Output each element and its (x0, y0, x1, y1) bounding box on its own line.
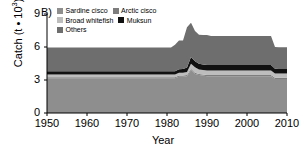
y-tick-label: 6 (20, 40, 40, 52)
legend-row: Others (57, 26, 187, 33)
y-tick-label: 3 (20, 73, 40, 85)
legend-row: Broad whitefish Muksun (57, 17, 187, 24)
legend-label-broad-whitefish: Broad whitefish (66, 17, 114, 24)
legend-row: Sardine cisco Arctic cisco (57, 7, 187, 14)
chart-legend: Sardine cisco Arctic cisco Broad whitefi… (57, 7, 187, 36)
figure-panel-b: B) Sardine cisco Arctic cisco Broad whit… (0, 0, 304, 149)
legend-label-muksun: Muksun (127, 17, 152, 24)
y-axis-label-dot: • (12, 22, 24, 26)
legend-item-sardine-cisco[interactable]: Sardine cisco (57, 7, 108, 14)
legend-swatch-sardine-cisco (57, 8, 63, 14)
legend-swatch-others (57, 27, 63, 33)
y-axis-label-exponent: 3 (10, 2, 19, 6)
legend-item-broad-whitefish[interactable]: Broad whitefish (57, 17, 113, 24)
legend-label-arctic-cisco: Arctic cisco (121, 7, 156, 14)
legend-swatch-broad-whitefish (57, 17, 63, 23)
x-tick-label: 2000 (227, 117, 267, 129)
x-tick-label: 2010 (267, 117, 304, 129)
legend-swatch-muksun (118, 17, 124, 23)
x-tick-label: 1990 (187, 117, 227, 129)
x-axis-label-text: Year (130, 134, 174, 146)
legend-item-arctic-cisco[interactable]: Arctic cisco (113, 7, 157, 14)
legend-label-others: Others (66, 26, 87, 33)
x-axis-label: Year (0, 134, 304, 146)
legend-swatch-arctic-cisco (113, 8, 119, 14)
legend-label-sardine-cisco: Sardine cisco (66, 7, 108, 14)
y-axis-label-paren: ) (12, 0, 24, 2)
legend-item-muksun[interactable]: Muksun (118, 17, 151, 24)
y-tick-label: 9 (20, 7, 40, 19)
panel-label: B) (41, 6, 52, 18)
chart-areas (47, 23, 287, 113)
x-tick-label: 1980 (147, 117, 187, 129)
x-tick-label: 1970 (107, 117, 147, 129)
legend-item-others[interactable]: Others (57, 26, 87, 33)
x-tick-label: 1960 (67, 117, 107, 129)
x-tick-label: 1950 (27, 117, 67, 129)
